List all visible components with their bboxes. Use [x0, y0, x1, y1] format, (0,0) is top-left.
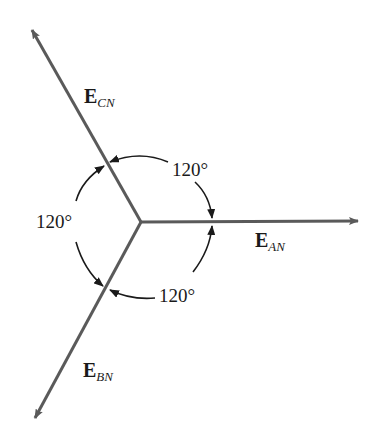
- phasor-label-ean: EAN: [255, 229, 286, 254]
- angle-arc-ebn-ean-right: [193, 226, 212, 272]
- angle-label-bottom: 120°: [159, 285, 195, 306]
- phasor-ebn-line: [35, 222, 141, 418]
- phasor-label-ecn: ECN: [84, 85, 116, 110]
- angle-arc-ebn-ean-left: [110, 290, 155, 298]
- angle-arc-ecn-ean-left: [110, 156, 168, 162]
- angle-label-left: 120°: [36, 211, 72, 232]
- angle-arc-ecn-ebn-top: [76, 166, 104, 201]
- angle-label-top: 120°: [172, 159, 208, 180]
- phasor-diagram: 120° 120° 120° ECN EAN EBN: [0, 0, 377, 443]
- phasor-ean-line: [141, 221, 358, 222]
- angle-arc-ecn-ean-right: [195, 182, 212, 218]
- phasor-ecn-line: [32, 30, 141, 222]
- angle-arc-ecn-ebn-bottom: [76, 242, 103, 286]
- phasor-label-ebn: EBN: [83, 359, 114, 384]
